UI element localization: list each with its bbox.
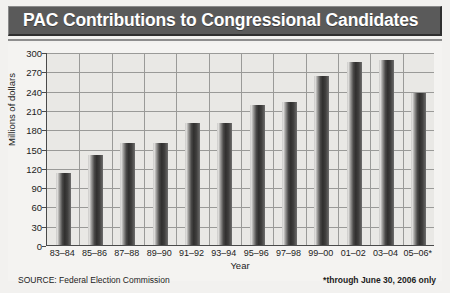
gridline-vertical — [306, 53, 307, 245]
bar — [250, 105, 265, 245]
gridline-vertical — [176, 53, 177, 245]
gridline-vertical — [241, 53, 242, 245]
x-axis-title: Year — [46, 260, 434, 271]
bar — [314, 76, 329, 245]
gridline-vertical — [79, 53, 80, 245]
bar — [120, 143, 135, 245]
x-axis-tick-label: 95–96 — [244, 248, 269, 258]
gridline-vertical — [144, 53, 145, 245]
bar — [347, 62, 362, 245]
y-axis-tick-label: 0 — [2, 241, 42, 252]
gridline-vertical — [370, 53, 371, 245]
bar — [185, 123, 200, 245]
source-note: SOURCE: Federal Election Commission — [18, 275, 170, 285]
x-axis-tick-label: 83–84 — [50, 248, 75, 258]
x-axis-tick-label: 03–04 — [373, 248, 398, 258]
x-axis-tick-label: 05–06* — [404, 248, 433, 258]
bar — [56, 173, 71, 245]
plot-area — [46, 53, 434, 246]
x-axis-tick-label: 89–90 — [147, 248, 172, 258]
x-axis-tick-label: 85–86 — [82, 248, 107, 258]
chart-title-bar: PAC Contributions to Congressional Candi… — [8, 6, 442, 36]
chart-figure: PAC Contributions to Congressional Candi… — [0, 0, 450, 293]
chart-footer: SOURCE: Federal Election Commission *thr… — [8, 272, 442, 288]
page-title: PAC Contributions to Congressional Candi… — [9, 10, 418, 31]
bar — [153, 143, 168, 245]
gridline-vertical — [273, 53, 274, 245]
bar — [282, 102, 297, 245]
y-axis-tick-label: 60 — [2, 202, 42, 213]
x-axis-tick-label: 87–88 — [114, 248, 139, 258]
y-axis-tick-label: 90 — [2, 183, 42, 194]
bar — [88, 155, 103, 245]
plot-inner — [47, 53, 434, 245]
title-divider — [8, 39, 442, 41]
x-axis-tick-label: 93–94 — [211, 248, 236, 258]
bar — [217, 123, 232, 245]
gridline-vertical — [338, 53, 339, 245]
gridline-vertical — [209, 53, 210, 245]
bar — [411, 93, 426, 245]
y-axis-title: Millions of dollars — [6, 50, 17, 170]
x-axis-tick-label: 99–00 — [308, 248, 333, 258]
x-axis-tick-label: 91–92 — [179, 248, 204, 258]
x-axis-tick-label: 97–98 — [276, 248, 301, 258]
x-axis-tick-label: 01–02 — [341, 248, 366, 258]
gridline-vertical — [112, 53, 113, 245]
y-axis-tick-label: 30 — [2, 221, 42, 232]
y-axis-tickmark — [42, 246, 46, 247]
gridline-vertical — [403, 53, 404, 245]
bar — [379, 60, 394, 245]
asterisk-note: *through June 30, 2006 only — [323, 275, 436, 285]
